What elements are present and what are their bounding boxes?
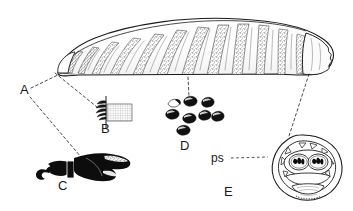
panel-label-b: B (101, 121, 110, 136)
ps-label: ps (211, 151, 224, 165)
pharyngeal-sclerite (74, 153, 130, 181)
spine (183, 113, 196, 123)
spiracle-disc-right (308, 154, 328, 170)
leader-A-to-C (30, 97, 81, 157)
spine (212, 111, 225, 121)
spine (202, 97, 215, 107)
spine (199, 110, 212, 120)
spine (166, 109, 179, 119)
leader-body-to-D (188, 77, 189, 97)
hypostomal-bar (67, 161, 74, 178)
panel-label-d: D (180, 138, 189, 153)
leader-A-to-body-tip (31, 73, 62, 88)
figure-root: A B C D E ps (0, 0, 353, 211)
spine (177, 125, 190, 135)
posterior-end (302, 33, 331, 75)
panel-label-e: E (224, 184, 233, 199)
leader-body-to-B (55, 73, 97, 107)
panel-d-cuticular-spines (166, 96, 224, 135)
panel-a-whole-larva (58, 18, 334, 77)
ps-leader-line[interactable] (231, 157, 268, 158)
spine (184, 96, 197, 106)
panel-label-a: A (20, 82, 29, 97)
leader-body-to-E (289, 74, 309, 136)
panel-c-cephalopharyngeal-skeleton (36, 153, 130, 181)
panel-b-hatched-plate (107, 104, 132, 121)
spiracle-disc-left (289, 154, 309, 170)
spine (168, 99, 181, 107)
spine-group (166, 96, 224, 135)
panel-label-c: C (58, 178, 67, 193)
panel-e-spiracular-plate (231, 135, 342, 200)
larva-morphology-figure: A B C D E ps (0, 0, 353, 211)
